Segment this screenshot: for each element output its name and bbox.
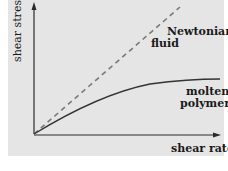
y-axis-arrow-icon [32, 2, 37, 10]
polymer-label-line1: molten [186, 86, 228, 97]
x-axis-label: shear rate [171, 143, 228, 154]
newtonian-fluid-line [34, 7, 180, 134]
y-axis-label: shear stress [11, 0, 24, 62]
newtonian-label-line2: fluid [151, 38, 179, 49]
polymer-label-line2: polymer [180, 98, 228, 109]
newtonian-label-line1: Newtonian [167, 26, 228, 37]
x-axis-arrow-icon [213, 133, 221, 138]
